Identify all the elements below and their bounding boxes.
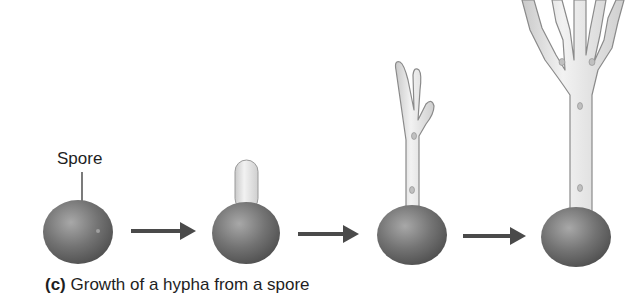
stage-young-hypha [377, 62, 447, 265]
stage-branched-hypha [522, 0, 624, 267]
figure-caption: (c) Growth of a hypha from a spore [45, 276, 310, 293]
arrow-icon [131, 222, 196, 240]
arrow-icon [463, 227, 526, 245]
spore-label: Spore [57, 150, 102, 167]
arrow-icon [298, 225, 359, 243]
panel-letter: (c) [45, 275, 66, 294]
stage-germinating-spore [212, 160, 280, 264]
spore-3 [377, 205, 447, 265]
branched-hypha-body [522, 0, 624, 212]
spore-1 [43, 200, 113, 264]
spore-2 [212, 202, 280, 264]
stage-spore [43, 172, 113, 264]
spore-4 [541, 207, 611, 267]
caption-text: Growth of a hypha from a spore [71, 275, 310, 294]
